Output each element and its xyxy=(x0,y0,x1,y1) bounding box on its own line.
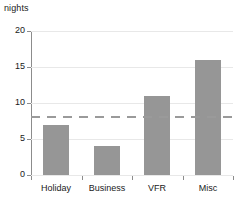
bar xyxy=(43,125,69,175)
y-tick-mark-20 xyxy=(27,31,31,32)
y-tick-label: 0 xyxy=(20,169,25,179)
mean-reference-line xyxy=(31,116,233,118)
x-tick-mark xyxy=(82,176,83,180)
bar xyxy=(94,146,120,175)
x-axis-label: Misc xyxy=(199,183,218,193)
plot-area xyxy=(31,31,233,175)
x-tick-mark xyxy=(31,176,32,180)
y-tick-label: 10 xyxy=(15,97,25,107)
y-axis-title: nights xyxy=(4,3,29,13)
y-tick-mark-15 xyxy=(27,67,31,68)
y-tick-mark-10 xyxy=(27,103,31,104)
y-tick-label: 5 xyxy=(20,133,25,143)
y-tick-label: 20 xyxy=(15,25,25,35)
x-axis-label: Business xyxy=(89,183,126,193)
x-tick-mark xyxy=(132,176,133,180)
y-tick-mark-5 xyxy=(27,139,31,140)
x-tick-mark xyxy=(233,176,234,180)
y-tick-label: 15 xyxy=(15,61,25,71)
bar-chart: nights 05101520 HolidayBusinessVFRMisc xyxy=(0,0,241,207)
x-tick-mark xyxy=(183,176,184,180)
gridline-y-20 xyxy=(31,31,233,32)
x-axis-label: VFR xyxy=(148,183,166,193)
bar xyxy=(144,96,170,175)
x-axis-label: Holiday xyxy=(41,183,71,193)
